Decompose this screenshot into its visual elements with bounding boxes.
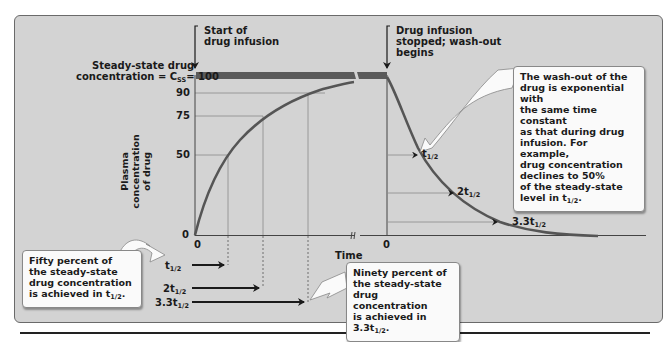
washout-callout: The wash-out of the drug is exponential … (513, 66, 645, 212)
y-tick-90: 90 (160, 87, 190, 98)
fifty-percent-callout: Fifty percent of the steady-state drug c… (22, 250, 142, 308)
css-equation: concentration = CSS= 100 (76, 71, 219, 86)
start-infusion-label: Start of drug infusion (204, 25, 279, 47)
css-label: Steady-state drug (92, 60, 180, 71)
infusion-marker-3.3t-half: 3.3t1/2 (155, 297, 189, 312)
y-tick-50: 50 (160, 149, 190, 160)
y-axis-label: Plasma concentration of drug (119, 127, 152, 217)
washout-marker-t-half: t1/2 (422, 148, 438, 163)
infusion-marker-2t-half: 2t1/2 (163, 283, 186, 298)
ninety-callout-tail (310, 272, 347, 300)
infusion-curve (195, 82, 354, 235)
x-zero-right: 0 (383, 239, 390, 250)
x-axis-label: Time (335, 250, 362, 261)
ninety-percent-callout: Ninety percent of the steady-state drug … (346, 262, 460, 342)
dotted-drop-lines (228, 236, 308, 302)
bottom-rule (20, 332, 650, 334)
y-tick-0: 0 (159, 229, 189, 240)
washout-marker-3.3t-half: 3.3t1/2 (512, 216, 546, 231)
y-tick-75: 75 (160, 110, 190, 121)
washout-callout-tail (420, 68, 520, 152)
washout-marker-2t-half: 2t1/2 (457, 186, 480, 201)
half-life-arrows (192, 265, 304, 302)
stop-infusion-label: Drug infusion stopped; wash-out begins (396, 25, 501, 58)
infusion-marker-t-half: t1/2 (165, 260, 181, 275)
steady-state-bar (196, 72, 387, 79)
reference-lines (195, 93, 325, 235)
x-zero-left: 0 (194, 239, 201, 250)
